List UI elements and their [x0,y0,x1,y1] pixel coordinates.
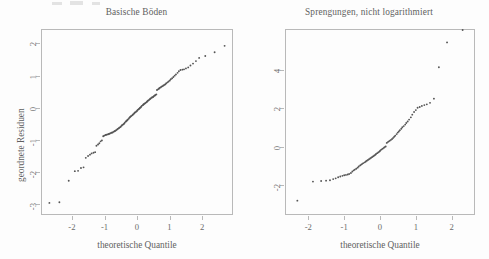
data-point [337,176,339,178]
plot-frame-left [41,29,233,215]
data-point [379,150,381,152]
data-point [126,119,128,121]
data-point [391,138,393,140]
data-point [339,175,341,177]
x-axis-tick [308,216,309,220]
data-point [105,134,107,136]
x-axis-tick-label: -1 [90,222,120,232]
y-axis-tick-label: -2 [272,184,282,216]
data-point [332,178,334,180]
panel-title-left: Basische Böden [0,7,245,17]
data-point [143,103,145,105]
data-point [147,99,149,101]
data-point [429,102,431,104]
x-axis-tick-label: 1 [401,222,431,232]
data-point [369,158,371,160]
data-point [174,75,176,77]
x-axis-tick-label: 2 [437,222,467,232]
data-point [341,175,343,177]
data-point [364,161,366,163]
data-point [421,105,423,107]
x-axis-title-left: theoretische Quantile [41,240,233,250]
y-axis-tick-label: -2 [28,171,38,203]
data-point [172,76,174,78]
y-axis-tick-label: 2 [28,42,38,74]
data-point [366,160,368,162]
data-point [83,166,85,168]
data-point [156,89,158,91]
data-point [224,45,226,47]
data-point [361,163,363,165]
data-point [175,73,177,75]
data-point [335,177,337,179]
x-axis-tick [137,216,138,220]
data-point [358,166,360,168]
data-point [383,147,385,149]
data-point [121,125,123,127]
data-point [397,132,399,134]
data-point [117,128,119,130]
data-point [394,135,396,137]
data-point [381,148,383,150]
data-point [405,122,407,124]
qq-plot-panel-left: Basische Böden geordnete Residuen -2-101… [0,0,245,259]
data-point [145,101,147,103]
data-point [396,133,398,135]
data-point [151,96,153,98]
data-point [329,179,331,181]
x-axis-tick [344,216,345,220]
data-point [399,129,401,131]
data-point [137,109,139,111]
data-point [355,168,357,170]
data-point [408,119,410,121]
data-point [85,157,87,159]
x-axis-title-right: theoretische Quantile [285,240,475,250]
y-axis-tick-label: 2 [272,107,282,139]
data-point [108,133,110,135]
data-point [392,137,394,139]
x-axis-tick-label: 2 [187,222,217,232]
data-point [127,119,129,121]
data-point [97,144,99,146]
data-point [353,169,355,171]
data-point [372,155,374,157]
data-point [131,114,133,116]
data-point [111,132,113,134]
data-point [354,169,356,171]
data-point [403,125,405,127]
data-point [398,130,400,132]
data-point [147,100,149,102]
data-point [371,156,373,158]
data-point [58,201,60,203]
data-point [426,103,428,105]
data-point [122,124,124,126]
data-point [389,140,391,142]
data-point [94,151,96,153]
data-point [155,93,157,95]
data-point [413,111,415,113]
data-point [125,120,127,122]
data-point [119,126,121,128]
data-point [370,157,372,159]
data-point [417,107,419,109]
data-point [415,109,417,111]
data-point [214,51,216,53]
data-point [365,161,367,163]
data-point [168,80,170,82]
plot-frame-right [285,29,475,215]
data-point [148,99,150,101]
data-point [100,140,102,142]
x-axis-tick [170,216,171,220]
x-axis-tick-label: 1 [155,222,185,232]
data-point [388,140,390,142]
data-point [138,108,140,110]
data-point [149,98,151,100]
x-axis-tick-label: -2 [293,222,323,232]
data-point [357,167,359,169]
data-point [350,172,352,174]
data-point [385,146,387,148]
data-point [124,122,126,124]
data-point [169,80,171,82]
data-point [93,152,95,154]
data-point [165,82,167,84]
